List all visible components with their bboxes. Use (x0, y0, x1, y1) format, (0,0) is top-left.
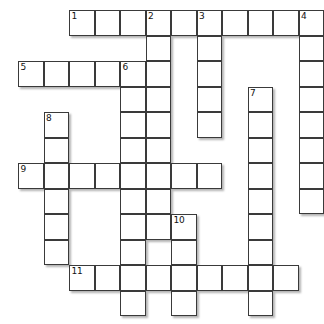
crossword-cell-3[interactable]: 3 (197, 10, 223, 36)
crossword-cell[interactable] (171, 291, 197, 317)
crossword-cell-8[interactable]: 8 (44, 112, 70, 138)
crossword-cell[interactable] (44, 138, 70, 164)
crossword-cell-4[interactable]: 4 (299, 10, 324, 36)
crossword-cell[interactable] (120, 240, 146, 266)
cell-number-2: 2 (148, 11, 153, 21)
crossword-cell[interactable] (120, 214, 146, 240)
crossword-cell[interactable] (171, 163, 197, 189)
crossword-cell[interactable] (299, 138, 324, 164)
cell-number-6: 6 (123, 62, 128, 72)
crossword-cell[interactable] (248, 163, 274, 189)
crossword-cell[interactable] (248, 138, 274, 164)
crossword-cell-1[interactable]: 1 (69, 10, 95, 36)
crossword-cell[interactable] (95, 265, 121, 291)
crossword-cell[interactable] (69, 61, 95, 87)
crossword-cell[interactable] (120, 112, 146, 138)
crossword-cell[interactable] (273, 265, 299, 291)
cell-number-4: 4 (301, 11, 306, 21)
crossword-cell[interactable] (146, 87, 172, 113)
crossword-cell[interactable] (171, 265, 197, 291)
crossword-cell[interactable] (299, 163, 324, 189)
crossword-cell[interactable] (146, 214, 172, 240)
crossword-cell[interactable] (146, 138, 172, 164)
crossword-cell[interactable] (146, 189, 172, 215)
crossword-cell[interactable] (171, 10, 197, 36)
crossword-cell[interactable] (146, 61, 172, 87)
crossword-cell[interactable] (44, 61, 70, 87)
crossword-cell[interactable] (120, 87, 146, 113)
crossword-cell[interactable] (299, 87, 324, 113)
crossword-cell[interactable] (197, 61, 223, 87)
crossword-cell[interactable] (171, 240, 197, 266)
crossword-cell[interactable] (44, 163, 70, 189)
crossword-cell[interactable] (120, 138, 146, 164)
crossword-cell[interactable] (222, 265, 248, 291)
crossword-cell[interactable] (299, 189, 324, 215)
cell-number-1: 1 (72, 11, 77, 21)
cell-number-8: 8 (46, 113, 51, 123)
crossword-cell[interactable] (44, 189, 70, 215)
crossword-cell[interactable] (273, 10, 299, 36)
cell-number-7: 7 (250, 88, 255, 98)
crossword-cell[interactable] (146, 265, 172, 291)
crossword-cell[interactable] (197, 265, 223, 291)
crossword-cell[interactable] (197, 112, 223, 138)
crossword-cell[interactable] (95, 61, 121, 87)
crossword-cell[interactable] (248, 291, 274, 317)
cell-number-10: 10 (174, 215, 185, 225)
crossword-cell[interactable] (120, 291, 146, 317)
crossword-cell[interactable] (197, 36, 223, 62)
crossword-cell-6[interactable]: 6 (120, 61, 146, 87)
crossword-cell[interactable] (120, 265, 146, 291)
crossword-cell-2[interactable]: 2 (146, 10, 172, 36)
crossword-cell[interactable] (44, 214, 70, 240)
crossword-cell-7[interactable]: 7 (248, 87, 274, 113)
crossword-cell[interactable] (69, 163, 95, 189)
crossword-cell[interactable] (146, 163, 172, 189)
crossword-cell[interactable] (248, 214, 274, 240)
crossword-cell[interactable] (120, 189, 146, 215)
crossword-cell[interactable] (95, 10, 121, 36)
cell-number-11: 11 (72, 266, 83, 276)
crossword-cell[interactable] (146, 36, 172, 62)
cell-number-5: 5 (21, 62, 26, 72)
crossword-cell[interactable] (120, 163, 146, 189)
crossword-cell[interactable] (248, 10, 274, 36)
crossword-cell-11[interactable]: 11 (69, 265, 95, 291)
crossword-cell[interactable] (120, 10, 146, 36)
crossword-cell-10[interactable]: 10 (171, 214, 197, 240)
crossword-cell[interactable] (248, 240, 274, 266)
crossword-cell[interactable] (197, 163, 223, 189)
crossword-cell[interactable] (44, 240, 70, 266)
crossword-cell[interactable] (248, 189, 274, 215)
crossword-cell[interactable] (95, 163, 121, 189)
crossword-cell[interactable] (299, 61, 324, 87)
crossword-cell[interactable] (222, 10, 248, 36)
cell-number-3: 3 (199, 11, 204, 21)
crossword-cell[interactable] (197, 87, 223, 113)
crossword-cell[interactable] (248, 112, 274, 138)
crossword-cell-9[interactable]: 9 (18, 163, 44, 189)
crossword-cell[interactable] (146, 112, 172, 138)
cell-number-9: 9 (21, 164, 26, 174)
crossword-cell[interactable] (299, 112, 324, 138)
crossword-cell[interactable] (248, 265, 274, 291)
crossword-cell-5[interactable]: 5 (18, 61, 44, 87)
crossword-cell[interactable] (299, 36, 324, 62)
